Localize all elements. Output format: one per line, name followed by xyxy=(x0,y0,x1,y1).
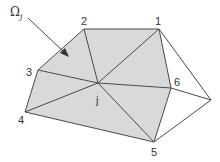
omega-label: Ω xyxy=(10,5,20,19)
vertex-label-3: 3 xyxy=(26,66,32,78)
vertex-label-6: 6 xyxy=(174,76,180,88)
center-node-label: j xyxy=(95,94,98,106)
omega-j-region xyxy=(25,29,171,142)
vertex-label-1: 1 xyxy=(155,15,161,27)
vertex-label-2: 2 xyxy=(81,15,87,27)
mesh-diagram: Ω j 1 2 3 4 5 6 j xyxy=(0,0,220,162)
omega-arrow xyxy=(28,18,69,57)
vertex-label-5: 5 xyxy=(151,146,157,158)
vertex-label-4: 4 xyxy=(18,114,24,126)
